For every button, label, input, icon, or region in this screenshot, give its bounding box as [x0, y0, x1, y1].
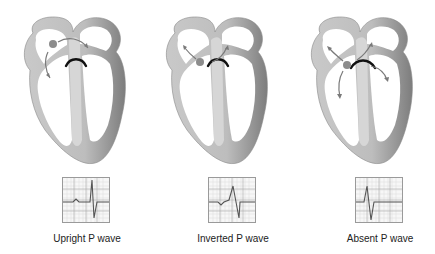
caption-absent: Absent P wave	[325, 233, 435, 244]
panel-upright-p-wave: Upright P wave	[0, 0, 145, 254]
ecg-strip	[62, 177, 110, 223]
panel-absent-p-wave: Absent P wave	[287, 0, 432, 254]
heart-diagram	[142, 0, 287, 175]
ecg-strip	[355, 177, 403, 223]
caption-inverted: Inverted P wave	[178, 233, 288, 244]
pacemaker-dot	[196, 58, 204, 66]
heart-diagram	[287, 0, 432, 175]
caption-upright: Upright P wave	[32, 233, 142, 244]
panel-inverted-p-wave: Inverted P wave	[142, 0, 287, 254]
ecg-strip	[208, 177, 256, 223]
pacemaker-dot	[343, 61, 351, 69]
heart-diagram	[0, 0, 145, 175]
pacemaker-dot	[49, 40, 57, 48]
